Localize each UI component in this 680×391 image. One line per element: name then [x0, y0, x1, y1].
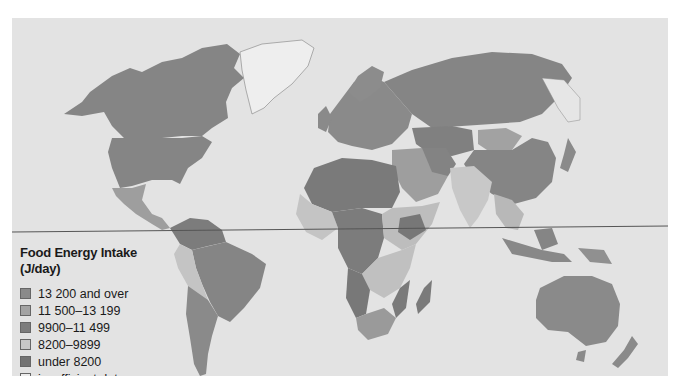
new-guinea — [578, 248, 612, 264]
legend-swatch — [20, 339, 31, 350]
legend-item: 9900–11 499 — [20, 319, 137, 336]
legend-swatch — [20, 373, 31, 376]
legend-item: 11 500–13 199 — [20, 302, 137, 319]
north-america-north — [64, 44, 244, 138]
legend-title-line2: (J/day) — [20, 261, 137, 277]
legend-swatch — [20, 356, 31, 367]
legend-label: 9900–11 499 — [38, 321, 110, 335]
legend-swatch — [20, 288, 31, 299]
legend-label: 13 200 and over — [38, 287, 128, 301]
legend-label: 8200–9899 — [38, 338, 101, 352]
legend-label: insufficient data — [38, 372, 125, 377]
legend-swatch — [20, 305, 31, 316]
legend-item: 8200–9899 — [20, 336, 137, 353]
legend-title-line1: Food Energy Intake — [20, 245, 137, 261]
tasmania — [576, 350, 586, 362]
usa — [108, 136, 212, 188]
borneo — [534, 228, 558, 250]
madagascar — [416, 280, 432, 314]
world-map: Food Energy Intake (J/day) 13 200 and ov… — [12, 18, 668, 376]
legend-item: under 8200 — [20, 353, 137, 370]
legend: Food Energy Intake (J/day) 13 200 and ov… — [20, 245, 137, 376]
greenland — [240, 40, 314, 114]
legend-label: 11 500–13 199 — [38, 304, 121, 318]
japan — [560, 138, 576, 172]
legend-swatch — [20, 322, 31, 333]
new-zealand — [612, 336, 638, 368]
legend-items: 13 200 and over 11 500–13 199 9900–11 49… — [20, 285, 137, 376]
legend-item: insufficient data — [20, 370, 137, 376]
north-africa — [304, 158, 400, 212]
legend-item: 13 200 and over — [20, 285, 137, 302]
mexico — [112, 184, 170, 230]
indonesia — [502, 238, 572, 262]
legend-label: under 8200 — [38, 355, 101, 369]
australia — [536, 276, 620, 346]
russia — [384, 52, 572, 128]
